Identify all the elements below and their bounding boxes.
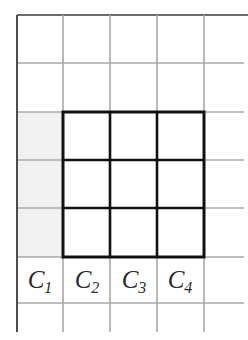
column-label-c3: C3 [122, 267, 147, 296]
label-base: C [168, 266, 185, 293]
label-subscript: 2 [91, 279, 99, 296]
label-base: C [28, 266, 45, 293]
label-subscript: 3 [138, 279, 146, 296]
label-subscript: 1 [44, 279, 52, 296]
label-base: C [75, 266, 92, 293]
grid-diagram: C1C2C3C4 [0, 0, 248, 340]
label-subscript: 4 [184, 279, 192, 296]
bold-square-outline [63, 112, 204, 257]
column-label-c1: C1 [28, 267, 53, 296]
column-label-c4: C4 [168, 267, 193, 296]
label-base: C [122, 266, 139, 293]
shaded-cells [17, 112, 63, 257]
column-label-c2: C2 [75, 267, 100, 296]
